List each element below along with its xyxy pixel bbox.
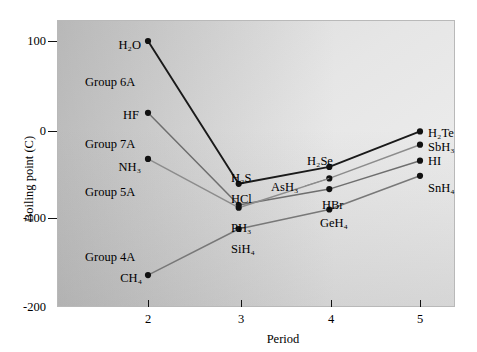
- point-label-hbr: HBr: [322, 199, 344, 212]
- point-label-h2s: H₂S: [231, 172, 251, 185]
- data-point-h2o: [145, 38, 151, 44]
- data-point-sbh3: [417, 142, 423, 148]
- data-point-ch4: [145, 272, 151, 278]
- point-label-hf: HF: [86, 109, 139, 122]
- point-label-snh4: SnH₄: [428, 182, 455, 195]
- data-point-hi: [417, 158, 423, 164]
- point-label-ph3: PH₃: [231, 222, 251, 235]
- data-point-h2te: [417, 128, 423, 134]
- point-label-nh3: NH₃: [86, 161, 141, 174]
- chart-figure: 100 0 -100 -200 Boiling point (C) 2 3 4 …: [0, 0, 477, 352]
- data-point-hf: [145, 110, 151, 116]
- point-label-ash3: AsH₃: [271, 181, 298, 194]
- point-label-hi: HI: [428, 155, 441, 168]
- group-annotation-6a: Group 6A: [85, 76, 135, 89]
- data-point-nh3: [145, 156, 151, 162]
- point-label-hcl: HCl: [231, 193, 252, 206]
- group-annotation-7a: Group 7A: [85, 138, 135, 151]
- point-label-h2te: H₂Te: [428, 127, 454, 140]
- group-annotation-5a: Group 5A: [85, 186, 135, 199]
- group-annotation-4a: Group 4A: [85, 251, 135, 264]
- leader-line-ash3: [305, 178, 329, 186]
- point-label-ch4: CH₄: [86, 272, 142, 285]
- point-label-h2se: H₂Se: [307, 155, 333, 168]
- data-point-snh4: [417, 173, 423, 179]
- point-label-geh4: GeH₄: [320, 217, 348, 230]
- point-label-sbh3: SbH₃: [428, 141, 455, 154]
- series-line-group-6a: [148, 41, 420, 184]
- point-label-sih4: SiH₄: [231, 243, 255, 256]
- point-label-h2o: H₂O: [86, 39, 141, 52]
- data-point-hbr: [326, 186, 332, 192]
